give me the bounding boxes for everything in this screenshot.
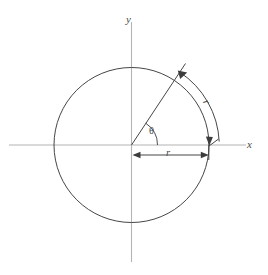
angle-theta-label: θ — [149, 126, 154, 137]
dimension-arrow-head-left — [133, 152, 141, 158]
radius-line — [132, 64, 186, 146]
figure-root: y x θ r r — [0, 0, 268, 275]
x-axis-label: x — [247, 139, 252, 150]
arc-arrow-head-top — [178, 71, 187, 79]
y-axis-label: y — [126, 14, 131, 25]
radius-dimension-label: r — [166, 148, 170, 159]
radian-diagram-svg — [0, 0, 268, 275]
